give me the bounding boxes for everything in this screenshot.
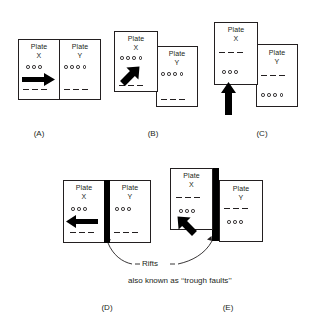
panel-b-arrow-up-right-icon: [118, 62, 144, 88]
panel-a-caption: (A): [19, 129, 59, 139]
panel-b-plate-y-circles: [161, 72, 183, 76]
panel-e-rift-bar: [212, 168, 219, 241]
panel-d-plate-y-circles: [115, 207, 131, 211]
panel-a-plate-x-box: [18, 39, 60, 100]
panel-a-plate-y-box: [59, 39, 101, 100]
panel-b-plate-x-circles: [120, 56, 142, 60]
panel-d-arrow-left-icon: [66, 215, 98, 228]
trough-faults-note: also known as ‘‘trough faults’’: [128, 276, 232, 286]
plate-tectonics-figure: Plate X Plate Y (A) Plate Y Plate X: [0, 0, 318, 325]
panel-a-arrow-right-icon: [22, 73, 56, 86]
panel-d-plate-x-dashes: [70, 232, 94, 233]
panel-d-plate-y-box: [109, 180, 151, 243]
rifts-label: Rifts: [142, 259, 158, 269]
panel-e-plate-x-dashes: [176, 197, 200, 198]
panel-c-plate-x-circles: [222, 70, 238, 74]
panel-e-arrow-up-left-icon: [173, 212, 199, 238]
panel-e-plate-y-dashes: [224, 208, 248, 209]
panel-c-plate-y-circles: [261, 93, 283, 97]
panel-e-plate-y-box: [219, 180, 263, 242]
panel-d-plate-y-dashes: [114, 232, 138, 233]
panel-b-plate-y-box: [156, 46, 198, 107]
panel-d-plate-x-circles: [71, 207, 87, 211]
panel-b-caption: (B): [133, 129, 173, 139]
panel-c-plate-x-box: [214, 22, 258, 85]
panel-c-plate-x-dashes: [219, 52, 243, 53]
panel-e-caption: (E): [208, 303, 248, 313]
panel-a-plate-y-dashes: [64, 89, 88, 90]
panel-a-plate-y-circles: [64, 65, 86, 69]
panel-d-caption: (D): [87, 303, 127, 313]
panel-d-rift-bar: [104, 180, 110, 243]
panel-a-plate-x-dashes: [23, 89, 47, 90]
panel-c-plate-y-dashes: [261, 75, 285, 76]
panel-b-plate-y-dashes: [161, 99, 185, 100]
panel-c-arrow-up-icon: [221, 82, 236, 115]
panel-e-plate-y-circles: [227, 220, 243, 224]
panel-d-plate-x-box: [63, 180, 105, 243]
panel-c-caption: (C): [242, 129, 282, 139]
panel-a-plate-x-circles: [26, 65, 42, 69]
